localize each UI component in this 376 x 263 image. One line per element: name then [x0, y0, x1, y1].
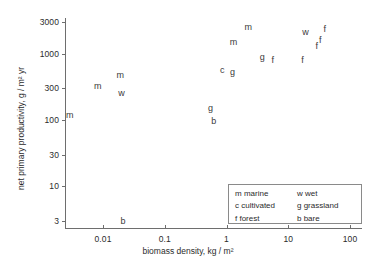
y-tick-label: 3 — [25, 216, 59, 226]
x-tick-label: 100 — [325, 234, 375, 244]
y-tick-label: 10 — [25, 181, 59, 191]
y-tick-label: 300 — [25, 83, 59, 93]
legend-box: m marinec cultivatedf forest w wetg gras… — [228, 184, 362, 224]
y-axis-line — [65, 18, 66, 228]
data-point-g: g — [260, 52, 265, 61]
legend-item-m: m marine — [235, 188, 275, 200]
y-tick-label: 100 — [25, 115, 59, 125]
x-tick-label: 0.1 — [140, 234, 190, 244]
data-point-b: b — [211, 117, 216, 126]
y-tick — [62, 155, 66, 156]
legend-column-right: w wetg grasslandb bare — [297, 188, 338, 225]
data-point-f: f — [301, 56, 304, 65]
data-point-c: c — [220, 66, 225, 75]
legend-item-w: w wet — [297, 188, 338, 200]
data-point-b: b — [120, 217, 125, 226]
x-tick-label: 1 — [202, 234, 252, 244]
legend-item-f: f forest — [235, 213, 275, 225]
x-tick-label: 0.01 — [78, 234, 128, 244]
legend-item-c: c cultivated — [235, 200, 275, 212]
data-point-m: m — [230, 37, 238, 46]
y-tick-label: 30 — [25, 150, 59, 160]
data-point-w: w — [118, 89, 125, 98]
x-axis-line — [65, 228, 362, 229]
y-tick — [62, 120, 66, 121]
data-point-m: m — [66, 110, 74, 119]
y-axis-title: net primary productivity, g / m² yr — [16, 67, 26, 190]
y-tick-label: 1000 — [25, 49, 59, 59]
data-point-f: f — [323, 25, 326, 34]
x-tick — [103, 225, 104, 229]
x-tick — [165, 225, 166, 229]
legend-column-left: m marinec cultivatedf forest — [235, 188, 275, 225]
scatter-plot: 3000100030010030103 0.010.1110100 mmmwbg… — [0, 0, 376, 263]
data-point-f: f — [316, 42, 319, 51]
x-tick — [227, 225, 228, 229]
x-tick — [288, 225, 289, 229]
data-point-m: m — [244, 23, 252, 32]
x-tick — [350, 225, 351, 229]
y-tick — [62, 186, 66, 187]
x-tick-label: 10 — [263, 234, 313, 244]
data-point-g: g — [230, 68, 235, 77]
y-tick-label: 3000 — [25, 17, 59, 27]
y-tick — [62, 22, 66, 23]
y-tick — [62, 54, 66, 55]
data-point-f: f — [271, 56, 274, 65]
y-tick — [62, 221, 66, 222]
data-point-m: m — [116, 70, 124, 79]
legend-item-b: b bare — [297, 213, 338, 225]
data-point-w: w — [302, 28, 309, 37]
data-point-m: m — [94, 81, 102, 90]
x-axis-title: biomass density, kg / m² — [0, 246, 376, 256]
data-point-g: g — [208, 104, 213, 113]
legend-item-g: g grassland — [297, 200, 338, 212]
y-tick — [62, 88, 66, 89]
data-point-f: f — [319, 36, 322, 45]
